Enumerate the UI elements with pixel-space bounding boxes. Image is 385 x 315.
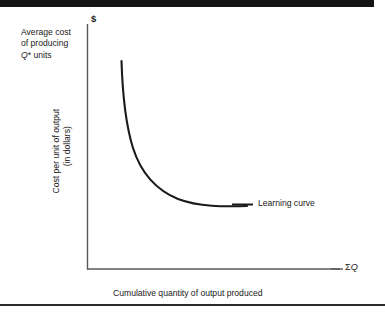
- y-axis-title-line1: Cost per unit of output: [51, 109, 61, 194]
- x-axis-title: Cumulative quantity of output produced: [113, 288, 263, 299]
- y-axis-unit-symbol: $: [91, 13, 96, 24]
- learning-curve-path: [122, 61, 248, 206]
- learning-curve-figure: $ Average cost of producing Q* units Cos…: [0, 0, 385, 315]
- sigma-q-axis-symbol: ΣQ: [345, 262, 358, 273]
- quantity-symbol: Q: [351, 262, 358, 272]
- average-cost-note-line2: of producing: [21, 38, 68, 48]
- average-cost-note-units: units: [31, 50, 52, 60]
- bottom-decorative-rule: [0, 304, 385, 306]
- y-axis-title-line2: (in dollars): [62, 86, 73, 216]
- learning-curve-annotation: Learning curve: [258, 198, 315, 209]
- average-cost-note-line1: Average cost: [21, 27, 71, 37]
- q-star-symbol: Q: [21, 50, 28, 60]
- y-axis-title: Cost per unit of output(in dollars): [51, 86, 73, 216]
- average-cost-note: Average cost of producing Q* units: [21, 27, 71, 61]
